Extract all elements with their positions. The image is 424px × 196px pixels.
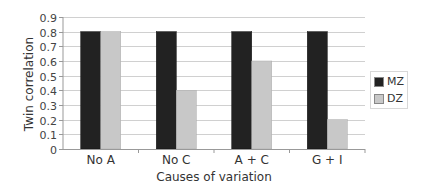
y-tick-label: 0.4 bbox=[40, 85, 58, 98]
y-axis-title: Twin correlation bbox=[22, 37, 36, 132]
y-tick-label: 0.3 bbox=[40, 100, 58, 113]
legend: MZ DZ bbox=[370, 71, 408, 109]
bar-mz bbox=[232, 32, 252, 149]
y-tick-label: 0.1 bbox=[40, 129, 58, 142]
legend-swatch-mz bbox=[374, 77, 384, 87]
legend-label-dz: DZ bbox=[387, 92, 403, 105]
legend-label-mz: MZ bbox=[387, 75, 404, 88]
x-tick-label: A + C bbox=[235, 153, 269, 167]
bar-dz bbox=[252, 61, 272, 149]
y-tick-label: 0.6 bbox=[40, 56, 58, 69]
legend-item-dz: DZ bbox=[374, 91, 407, 106]
bar-dz bbox=[327, 120, 347, 149]
bar-mz bbox=[307, 32, 327, 149]
x-tick-label: No A bbox=[87, 153, 116, 167]
legend-item-mz: MZ bbox=[374, 74, 407, 89]
y-tick-label: 0.5 bbox=[40, 71, 58, 84]
bar-chart: 00.10.20.30.40.50.60.70.80.9 No ANo CA +… bbox=[0, 0, 424, 196]
x-axis-title: Causes of variation bbox=[156, 170, 271, 184]
x-tick-label: No C bbox=[162, 153, 191, 167]
y-tick-label: 0.7 bbox=[40, 41, 58, 54]
y-tick-label: 0.2 bbox=[40, 115, 58, 128]
y-tick-label: 0 bbox=[50, 144, 57, 157]
y-axis-ticks: 00.10.20.30.40.50.60.70.80.9 bbox=[40, 12, 64, 157]
y-tick-label: 0.9 bbox=[40, 12, 58, 25]
x-tick-label: G + I bbox=[312, 153, 343, 167]
legend-swatch-dz bbox=[374, 94, 384, 104]
bar-mz bbox=[81, 32, 101, 149]
bar-dz bbox=[176, 90, 196, 149]
y-tick-label: 0.8 bbox=[40, 27, 58, 40]
bar-mz bbox=[156, 32, 176, 149]
x-axis-ticks: No ANo CA + CG + I bbox=[87, 149, 365, 167]
bar-dz bbox=[101, 32, 121, 149]
